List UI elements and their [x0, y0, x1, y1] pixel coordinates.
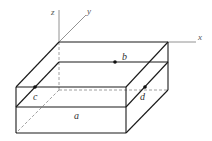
label-b: b — [122, 51, 127, 62]
box-diagram: z y x b c d a — [0, 0, 212, 141]
y-axis — [59, 15, 86, 42]
top-right-edge — [126, 42, 168, 87]
hidden-left-bottom-edge — [16, 90, 59, 133]
x-axis-label: x — [197, 32, 202, 42]
mid-left-line — [16, 62, 59, 107]
point-d — [143, 85, 147, 89]
top-left-edge — [16, 42, 59, 87]
label-a: a — [74, 110, 79, 121]
label-c: c — [33, 91, 38, 102]
bottom-right-edge — [126, 90, 168, 133]
mid-right-line — [126, 62, 168, 107]
point-b — [113, 60, 117, 64]
point-c — [33, 85, 37, 89]
z-axis-label: z — [50, 7, 55, 17]
label-d: d — [140, 91, 146, 102]
y-axis-label: y — [86, 6, 91, 16]
